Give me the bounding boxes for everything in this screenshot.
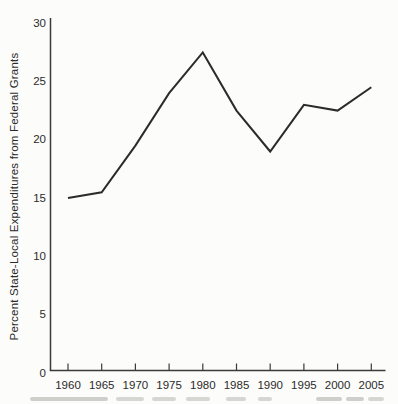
x-tick-label: 1965 (84, 379, 120, 391)
x-tick-label: 1975 (151, 379, 187, 391)
x-tick-label: 2005 (353, 379, 389, 391)
x-tick-label: 1980 (185, 379, 221, 391)
y-tick-label: 15 (18, 193, 46, 204)
x-tick-label: 1985 (219, 379, 255, 391)
chart-canvas (0, 0, 398, 404)
y-tick-label: 5 (18, 309, 46, 320)
data-line (68, 52, 371, 198)
x-tick-label: 1960 (50, 379, 86, 391)
cutoff-caption-fragment (0, 395, 398, 404)
y-tick-label: 20 (18, 134, 46, 145)
y-tick-label: 25 (18, 76, 46, 87)
y-tick-label: 30 (18, 18, 46, 29)
y-tick-label: 0 (18, 368, 46, 379)
x-tick-label: 1990 (252, 379, 288, 391)
x-tick-label: 1970 (117, 379, 153, 391)
x-tick-label: 1995 (286, 379, 322, 391)
line-chart: Percent State-Local Expenditures from Fe… (0, 0, 398, 404)
x-tick-label: 2000 (320, 379, 356, 391)
y-tick-label: 10 (18, 251, 46, 262)
